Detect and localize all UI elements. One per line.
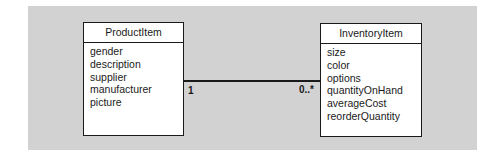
class-attributes: size color options quantityOnHand averag… [321, 44, 421, 123]
multiplicity-product-side: 1 [188, 85, 194, 96]
class-name: InventoryItem [321, 24, 421, 44]
class-attributes: gender description supplier manufacturer… [84, 43, 183, 109]
class-box-product-item: ProductItem gender description supplier … [83, 22, 184, 136]
attribute: supplier [90, 71, 183, 84]
class-name: ProductItem [84, 23, 183, 43]
attribute: manufacturer [90, 83, 183, 96]
class-box-inventory-item: InventoryItem size color options quantit… [320, 23, 422, 137]
attribute: description [90, 58, 183, 71]
attribute: picture [90, 96, 183, 109]
attribute: color [327, 59, 421, 72]
multiplicity-inventory-side: 0..* [299, 84, 314, 95]
attribute: options [327, 72, 421, 85]
attribute: reorderQuantity [327, 110, 421, 123]
attribute: averageCost [327, 97, 421, 110]
attribute: size [327, 46, 421, 59]
attribute: gender [90, 45, 183, 58]
association-line [184, 80, 320, 82]
attribute: quantityOnHand [327, 84, 421, 97]
